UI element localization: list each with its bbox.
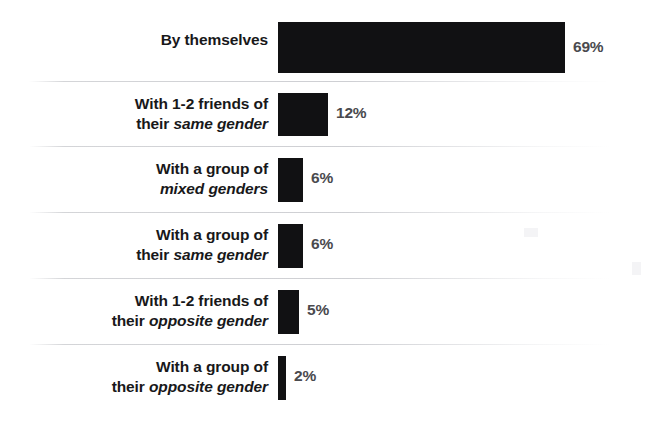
chart-row: With a group of mixed genders 6% bbox=[0, 147, 656, 212]
category-label-line2-plain: their bbox=[112, 312, 149, 329]
category-label-line1: With 1-2 friends of bbox=[8, 291, 268, 311]
category-label-line2: their same gender bbox=[8, 245, 268, 265]
category-label-line1: With 1-2 friends of bbox=[8, 94, 268, 114]
bar bbox=[278, 356, 286, 400]
category-label-line2-plain: their bbox=[136, 115, 173, 132]
category-label: With a group of mixed genders bbox=[8, 159, 268, 199]
category-label: With 1-2 friends of their opposite gende… bbox=[8, 291, 268, 331]
category-label-line1: By themselves bbox=[8, 30, 268, 50]
category-label: With a group of their same gender bbox=[8, 225, 268, 265]
category-label-line1: With a group of bbox=[8, 357, 268, 377]
chart-row: With 1-2 friends of their opposite gende… bbox=[0, 279, 656, 344]
horizontal-bar-chart: By themselves 69% With 1-2 friends of th… bbox=[0, 0, 656, 436]
bar bbox=[278, 93, 328, 136]
category-label-line1: With a group of bbox=[8, 159, 268, 179]
category-label: With 1-2 friends of their same gender bbox=[8, 94, 268, 134]
category-label-line2: their opposite gender bbox=[8, 377, 268, 397]
chart-row: With a group of their opposite gender 2% bbox=[0, 345, 656, 411]
bar-value-label: 6% bbox=[311, 235, 333, 253]
category-label-line2: their opposite gender bbox=[8, 311, 268, 331]
chart-row: With 1-2 friends of their same gender 12… bbox=[0, 82, 656, 146]
category-label-line2-emphasis: opposite gender bbox=[149, 312, 268, 329]
category-label-line1: With a group of bbox=[8, 225, 268, 245]
category-label-line2: their same gender bbox=[8, 114, 268, 134]
category-label-line2-emphasis: same gender bbox=[173, 246, 268, 263]
chart-row: By themselves 69% bbox=[0, 8, 656, 74]
category-label-line2-emphasis: same gender bbox=[173, 115, 268, 132]
bar-value-label: 12% bbox=[336, 104, 366, 122]
bar bbox=[278, 22, 565, 73]
category-label: With a group of their opposite gender bbox=[8, 357, 268, 397]
chart-row: With a group of their same gender 6% bbox=[0, 213, 656, 278]
category-label-line2-emphasis: opposite gender bbox=[149, 378, 268, 395]
bar-value-label: 2% bbox=[294, 367, 316, 385]
bar bbox=[278, 290, 299, 334]
bar-value-label: 5% bbox=[307, 301, 329, 319]
bar bbox=[278, 158, 303, 202]
category-label: By themselves bbox=[8, 30, 268, 50]
category-label-line2-plain: their bbox=[136, 246, 173, 263]
category-label-line2: mixed genders bbox=[8, 179, 268, 199]
category-label-line2-emphasis: mixed genders bbox=[160, 180, 268, 197]
bar bbox=[278, 224, 303, 268]
bar-value-label: 69% bbox=[573, 38, 603, 56]
bar-value-label: 6% bbox=[311, 169, 333, 187]
category-label-line2-plain: their bbox=[112, 378, 149, 395]
